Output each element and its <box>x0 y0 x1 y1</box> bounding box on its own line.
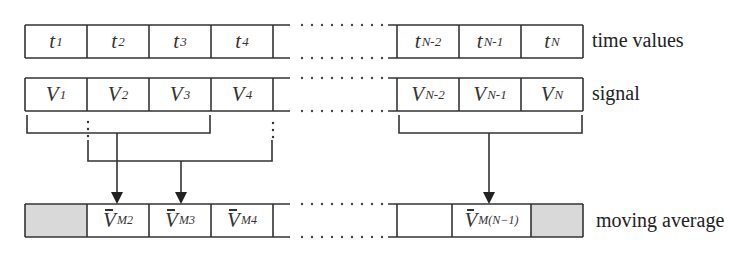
signal-cell-n-1: VN-1 <box>459 78 521 111</box>
time-cell-3: t3 <box>149 25 211 58</box>
time-cell-4: t4 <box>211 25 273 58</box>
moving-average-cell-m4: VM4 <box>211 204 273 237</box>
moving-average-cell-m2: VM2 <box>87 204 149 237</box>
bracket-window-1 <box>27 115 210 133</box>
shaded-cell-first <box>25 204 87 237</box>
signal-label: signal <box>592 82 640 105</box>
arrow-to-vm3 <box>175 192 187 204</box>
time-cell-2: t2 <box>87 25 149 58</box>
signal-cell-n: VN <box>521 78 583 111</box>
bracket-window-last <box>399 115 582 133</box>
shaded-cell-last <box>531 204 583 237</box>
signal-cell-n-2: VN-2 <box>397 78 459 111</box>
time-cell-n-1: tN-1 <box>459 25 521 58</box>
time-values-label: time values <box>592 29 684 52</box>
signal-cell-2: V2 <box>87 78 149 111</box>
time-cell-n: tN <box>521 25 583 58</box>
time-cell-n-2: tN-2 <box>397 25 459 58</box>
moving-average-cell-m3: VM3 <box>149 204 211 237</box>
moving-average-label: moving average <box>596 209 724 232</box>
ellipsis-dots <box>301 24 383 238</box>
arrow-to-vmn1 <box>483 192 495 204</box>
arrow-to-vm2 <box>111 192 123 204</box>
arrowheads <box>111 192 495 204</box>
signal-cell-4: V4 <box>211 78 273 111</box>
bracket-window-2 <box>88 140 272 161</box>
time-cell-1: t1 <box>25 25 87 58</box>
signal-cell-1: V1 <box>25 78 87 111</box>
moving-average-cell-m-n-1: VM(N−1) <box>452 204 531 237</box>
signal-cell-3: V3 <box>149 78 211 111</box>
